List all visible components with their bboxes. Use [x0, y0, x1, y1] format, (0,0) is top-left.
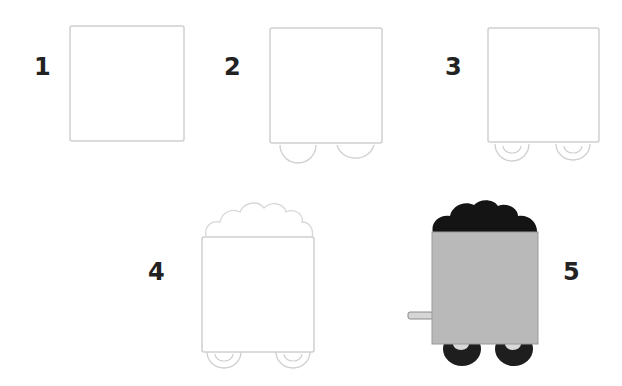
step-number-3: 3	[445, 55, 462, 79]
step-4-drawing	[202, 203, 314, 368]
drawing-canvas	[0, 0, 622, 386]
coupling-rod	[408, 312, 433, 319]
step-number-1: 1	[34, 55, 51, 79]
step-number-4: 4	[148, 260, 165, 284]
step-5-drawing	[408, 200, 538, 366]
step-number-2: 2	[224, 55, 241, 79]
step-1-drawing	[70, 26, 184, 141]
coal-pile	[432, 200, 537, 233]
step-2-drawing	[270, 28, 382, 163]
step-3-drawing	[488, 28, 599, 161]
step-number-5: 5	[563, 260, 580, 284]
wagon-body	[432, 232, 538, 344]
